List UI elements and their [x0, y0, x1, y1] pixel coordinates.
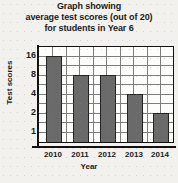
plot-frame	[38, 46, 174, 143]
x-axis-tick-labels: 2010 2011 2012 2013 2014	[32, 150, 178, 162]
bars-layer	[39, 47, 174, 143]
x-axis-label: Year	[0, 162, 178, 171]
x-tick-label: 2014	[145, 150, 175, 159]
y-axis-line	[37, 45, 39, 147]
x-tick-label: 2012	[92, 150, 122, 159]
chart-title-line-3: for students in Year 6	[0, 23, 178, 34]
plot-area	[38, 46, 174, 143]
bar-2011	[73, 75, 89, 143]
y-tick-label: 16	[2, 51, 36, 60]
y-axis-tick-labels: 16 8 4 2 1	[0, 46, 36, 143]
bar-2012	[100, 75, 116, 143]
chart-title: Graph showing average test scores (out o…	[0, 1, 178, 34]
bar-chart: Graph showing average test scores (out o…	[0, 0, 178, 183]
y-tick-label: 1	[2, 127, 36, 136]
x-axis-line	[32, 146, 176, 148]
y-tick-label: 4	[2, 89, 36, 98]
y-tick-label: 2	[2, 108, 36, 117]
bar-2010	[46, 56, 62, 143]
y-tick-label: 8	[2, 70, 36, 79]
x-tick-label: 2010	[38, 150, 68, 159]
bar-2014	[153, 113, 169, 143]
chart-title-line-1: Graph showing	[0, 1, 178, 12]
x-tick-label: 2011	[65, 150, 95, 159]
bar-2013	[127, 94, 143, 143]
chart-title-line-2: average test scores (out of 20)	[0, 12, 178, 23]
